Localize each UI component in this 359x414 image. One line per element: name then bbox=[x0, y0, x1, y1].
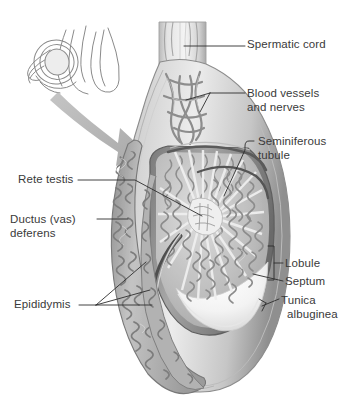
label-epididymis: Epididymis bbox=[14, 298, 71, 312]
label-tunica-albuginea-line2: albuginea bbox=[281, 307, 338, 321]
label-ductus-deferens-line2: deferens bbox=[10, 226, 76, 240]
label-lobule-line1: Lobule bbox=[285, 257, 320, 271]
label-seminiferous-tubule-line1: Seminiferous bbox=[258, 134, 326, 148]
label-lobule: Lobule bbox=[285, 257, 320, 271]
label-blood-vessels-and-nerves: Blood vessels and nerves bbox=[247, 86, 319, 114]
label-tunica-albuginea: Tunica albuginea bbox=[281, 293, 338, 321]
label-seminiferous-tubule: Seminiferous tubule bbox=[258, 134, 326, 162]
label-spermatic-cord-line1: Spermatic cord bbox=[247, 38, 326, 52]
label-rete-testis-line1: Rete testis bbox=[18, 173, 73, 187]
label-septum-line1: Septum bbox=[285, 275, 325, 289]
label-seminiferous-tubule-line2: tubule bbox=[258, 148, 326, 162]
figure-canvas: Spermatic cord Blood vessels and nerves … bbox=[0, 0, 359, 414]
label-rete-testis: Rete testis bbox=[18, 173, 73, 187]
label-epididymis-line1: Epididymis bbox=[14, 298, 71, 312]
orientation-inset-drawing bbox=[28, 26, 120, 94]
anatomy-illustration bbox=[0, 0, 359, 414]
label-ductus-vas-deferens: Ductus (vas) deferens bbox=[10, 212, 76, 240]
label-tunica-albuginea-line1: Tunica bbox=[281, 293, 338, 307]
label-blood-vessels-line1: Blood vessels bbox=[247, 86, 319, 100]
label-septum: Septum bbox=[285, 275, 325, 289]
label-spermatic-cord: Spermatic cord bbox=[247, 38, 326, 52]
label-ductus-deferens-line1: Ductus (vas) bbox=[10, 212, 76, 226]
label-blood-vessels-line2: and nerves bbox=[247, 100, 319, 114]
